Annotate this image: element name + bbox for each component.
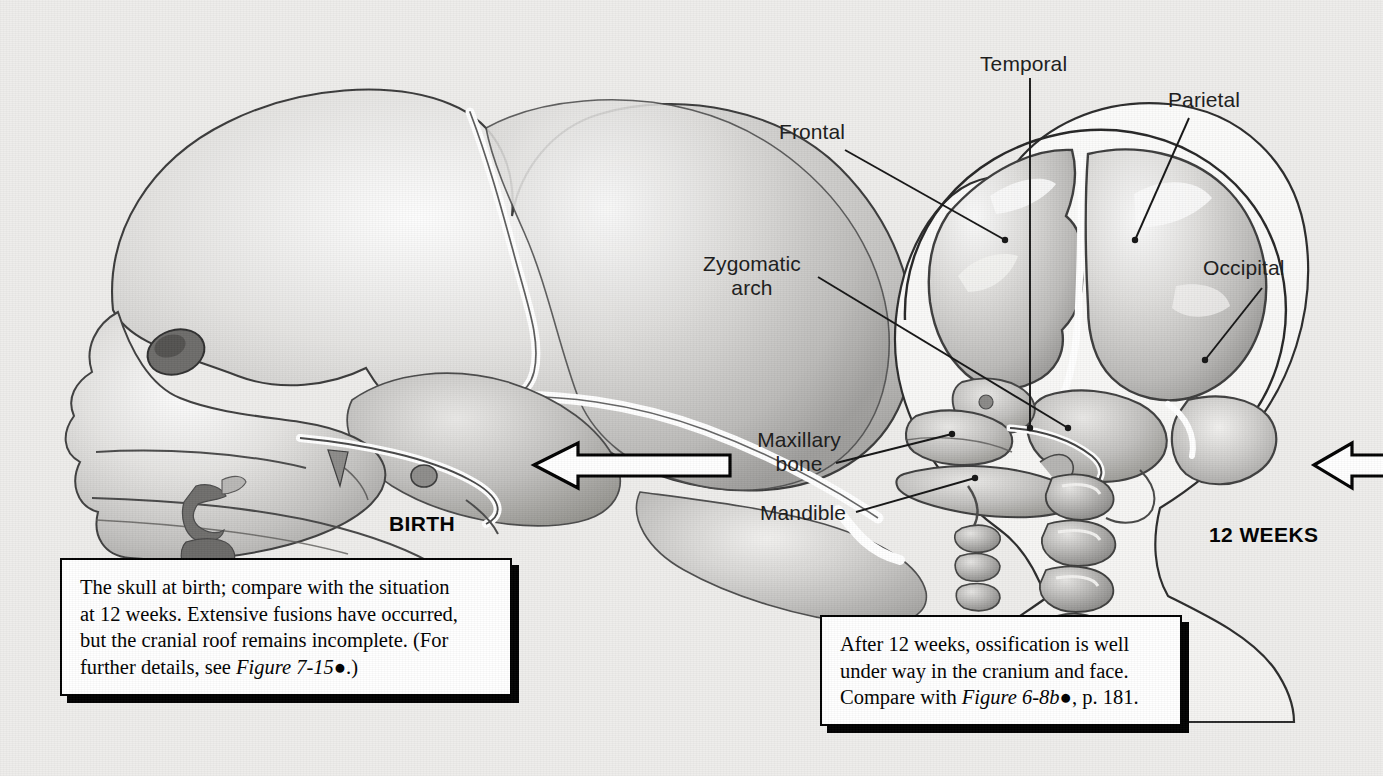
label-maxillary-bone: Maxillary bone — [744, 428, 854, 475]
vertebra-c1 — [1046, 474, 1114, 520]
endpoint-maxillary — [949, 431, 955, 437]
caption-box-12-weeks: After 12 weeks, ossification is well und… — [820, 615, 1182, 726]
caption-12w-figure-ref: Figure 6-8b — [962, 686, 1060, 708]
caption-birth-line4: further details, see Figure 7-15●.) — [80, 654, 494, 681]
label-mandible: Mandible — [760, 501, 846, 525]
caption-birth-line4-post: .) — [346, 656, 358, 678]
label-zygomatic-arch: Zygomatic arch — [688, 252, 816, 299]
endpoint-parietal — [1132, 237, 1138, 243]
auditory-meatus — [411, 465, 437, 487]
label-temporal: Temporal — [980, 52, 1067, 76]
vertebra-c2 — [1042, 520, 1115, 566]
cricoid-cartilage — [956, 584, 1000, 611]
figure-canvas: Frontal Temporal Parietal Occipital Zygo… — [0, 0, 1383, 776]
hyoid-body — [955, 525, 1000, 552]
vertebra-c3 — [1040, 566, 1113, 612]
endpoint-frontal — [1002, 237, 1008, 243]
caption-birth-line2: at 12 weeks. Extensive fusions have occu… — [80, 601, 494, 628]
caption-12w-line3-post: , p. 181. — [1072, 686, 1139, 708]
caption-12w-line2: under way in the cranium and face. — [840, 658, 1164, 685]
caption-12w-line1: After 12 weeks, ossification is well — [840, 631, 1164, 658]
label-frontal: Frontal — [779, 120, 845, 144]
endpoint-occipital — [1202, 357, 1208, 363]
thyroid-cartilage — [955, 554, 1000, 582]
caption-birth-line3: but the cranial roof remains incomplete.… — [80, 627, 494, 654]
orbital-foramen — [979, 395, 993, 409]
caption-12w-bullet: ● — [1060, 686, 1072, 708]
label-parietal: Parietal — [1168, 88, 1240, 112]
arrow-right-edge — [1314, 443, 1383, 488]
caption-box-birth: The skull at birth; compare with the sit… — [60, 558, 512, 696]
endpoint-zygomatic — [1065, 425, 1071, 431]
caption-birth-line1: The skull at birth; compare with the sit… — [80, 574, 494, 601]
caption-birth-line4-pre: further details, see — [80, 656, 236, 678]
occipital-bone — [1172, 397, 1276, 485]
caption-12w-line3: Compare with Figure 6-8b●, p. 181. — [840, 684, 1164, 711]
label-occipital: Occipital — [1203, 256, 1284, 280]
newborn-skull-illustration — [66, 90, 927, 625]
endpoint-temporal — [1027, 425, 1033, 431]
stage-label-12-weeks: 12 WEEKS — [1209, 523, 1318, 547]
caption-12w-line3-pre: Compare with — [840, 686, 962, 708]
caption-birth-bullet: ● — [334, 656, 346, 678]
endpoint-mandible — [972, 475, 978, 481]
caption-birth-figure-ref: Figure 7-15 — [236, 656, 334, 678]
stage-label-birth: BIRTH — [389, 512, 455, 536]
